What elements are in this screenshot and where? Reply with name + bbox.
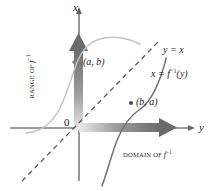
axis-label-y: y	[199, 122, 204, 133]
range-of-text: RANGE OF	[28, 64, 35, 98]
axis-label-x: x	[73, 2, 78, 13]
inverse-curve-lhs: x = f	[151, 68, 170, 79]
f-inverse-exponent-domain: −1	[166, 149, 172, 155]
identity-line-label: y = x	[163, 45, 184, 55]
inverse-function-figure: x y 0 RANGE OF f−1 DOMAIN OF f−1 y = x x…	[0, 0, 217, 191]
domain-of-text: DOMAIN OF	[123, 151, 162, 158]
inverse-curve-arg: (y)	[177, 68, 188, 79]
point-b-a-label: (b, a)	[136, 97, 158, 107]
domain-of-f-inverse-label: DOMAIN OF f−1	[123, 150, 172, 159]
f-symbol: f	[27, 60, 36, 62]
origin-label: 0	[64, 117, 70, 128]
range-of-f-inverse-label: RANGE OF f−1	[27, 37, 36, 117]
point-b-a-marker	[129, 101, 133, 105]
inverse-curve-label: x = f−1(y)	[151, 69, 188, 79]
point-a-b-label: (a, b)	[83, 57, 105, 67]
inverse-curve-exponent: −1	[170, 67, 177, 74]
f-inverse-exponent: −1	[25, 54, 31, 60]
point-a-b-marker	[72, 60, 76, 64]
